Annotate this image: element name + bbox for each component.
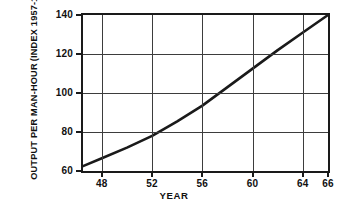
y-axis-tick-mark bbox=[76, 170, 81, 172]
x-axis-tick-mark bbox=[302, 172, 304, 177]
plot-inner bbox=[83, 15, 328, 171]
y-axis-tick-label: 80 bbox=[21, 126, 73, 137]
y-axis-title: OUTPUT PER MAN-HOUR (INDEX 1957-1959 = 1… bbox=[14, 0, 54, 145]
x-axis-tick-mark bbox=[151, 172, 153, 177]
gridline-vertical bbox=[253, 15, 254, 171]
gridline-vertical bbox=[303, 15, 304, 171]
y-axis-tick-mark bbox=[76, 14, 81, 16]
x-axis-tick-mark bbox=[252, 172, 254, 177]
x-axis-title: YEAR bbox=[0, 190, 348, 201]
x-axis-tick-label: 48 bbox=[82, 178, 122, 189]
chart-figure: OUTPUT PER MAN-HOUR (INDEX 1957-1959 = 1… bbox=[0, 0, 348, 216]
y-axis-tick-mark bbox=[76, 92, 81, 94]
x-axis-tick-label: 60 bbox=[233, 178, 273, 189]
gridline-vertical bbox=[152, 15, 153, 171]
y-axis-tick-mark bbox=[76, 53, 81, 55]
x-axis-tick-label: 66 bbox=[308, 178, 348, 189]
y-axis-title-line1: OUTPUT PER MAN-HOUR bbox=[29, 63, 40, 180]
y-axis-tick-mark bbox=[76, 131, 81, 133]
x-axis-tick-label: 56 bbox=[182, 178, 222, 189]
y-axis-tick-label: 60 bbox=[21, 165, 73, 176]
x-axis-tick-mark bbox=[201, 172, 203, 177]
plot-area bbox=[81, 13, 330, 173]
x-axis-tick-label: 52 bbox=[132, 178, 172, 189]
x-axis-tick-mark bbox=[101, 172, 103, 177]
gridline-horizontal bbox=[83, 54, 328, 55]
y-axis-tick-label: 140 bbox=[21, 9, 73, 20]
gridline-horizontal bbox=[83, 93, 328, 94]
y-axis-tick-label: 120 bbox=[21, 48, 73, 59]
gridline-vertical bbox=[102, 15, 103, 171]
x-axis-tick-mark bbox=[327, 172, 329, 177]
gridline-horizontal bbox=[83, 132, 328, 133]
y-axis-tick-label: 100 bbox=[21, 87, 73, 98]
gridline-vertical bbox=[202, 15, 203, 171]
